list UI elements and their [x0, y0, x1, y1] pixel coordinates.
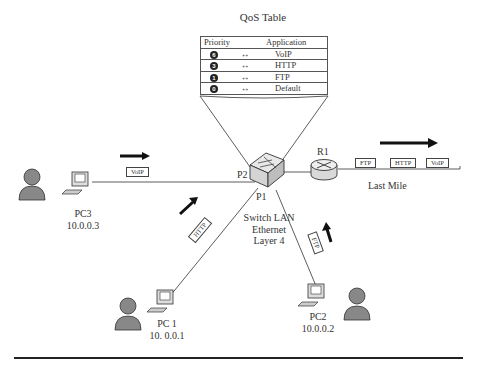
qos-row: 6 ↔ VoIP	[201, 48, 328, 60]
host-name: PC 1	[142, 318, 192, 330]
host-ip: 10. 0.0.1	[142, 330, 192, 342]
router-label: R1	[317, 146, 329, 158]
qos-application: VoIP	[263, 48, 328, 60]
pc1-computer-icon[interactable]	[147, 290, 173, 312]
qos-table: Priority Application 6 ↔ VoIP 3 ↔ HTTP 1…	[200, 36, 328, 95]
switch-label: Switch LAN Ethernet Layer 4	[234, 212, 304, 247]
qos-callout-line-left	[200, 96, 250, 167]
arrow-icon-pc2	[322, 222, 331, 242]
bidirectional-arrow-icon: ↔	[227, 48, 263, 60]
arrow-icon-last-mile	[380, 138, 438, 148]
bidirectional-arrow-icon: ↔	[227, 71, 263, 83]
arrow-icon-pc1	[180, 197, 198, 214]
port-label-p2: P2	[237, 169, 248, 181]
host-ip: 10.0.0.2	[293, 323, 343, 335]
user-icon-pc2	[344, 288, 370, 320]
host-name: PC3	[58, 208, 108, 220]
qos-application: HTTP	[263, 60, 328, 72]
qos-row: 3 ↔ HTTP	[201, 60, 328, 72]
pc2-label: PC2 10.0.0.2	[293, 311, 343, 334]
port-label-p1: P1	[256, 191, 267, 203]
router-icon[interactable]	[311, 160, 337, 181]
pc1-label: PC 1 10. 0.0.1	[142, 318, 192, 341]
pc2-computer-icon[interactable]	[298, 284, 324, 306]
pc3-label: PC3 10.0.0.3	[58, 208, 108, 231]
user-icon-pc3	[19, 169, 45, 200]
packet-voip: VoIP	[426, 158, 449, 168]
priority-badge: 3	[210, 62, 218, 70]
pc3-computer-icon[interactable]	[62, 172, 88, 194]
switch-icon[interactable]	[250, 153, 284, 187]
bidirectional-arrow-icon: ↔	[227, 83, 263, 95]
qos-row: 0 ↔ Default	[201, 83, 328, 95]
host-ip: 10.0.0.3	[58, 220, 108, 232]
qos-row: 1 ↔ FTP	[201, 71, 328, 83]
packet-http: HTTP	[390, 158, 416, 168]
priority-badge: 1	[210, 74, 218, 82]
packet-ftp: FTP	[355, 158, 376, 168]
priority-badge: 6	[210, 51, 218, 59]
bidirectional-arrow-icon: ↔	[227, 60, 263, 72]
qos-header-priority: Priority	[201, 37, 264, 49]
priority-badge: 0	[210, 85, 218, 93]
qos-application: Default	[263, 83, 328, 95]
qos-application: FTP	[263, 71, 328, 83]
user-icon-pc1	[115, 298, 141, 330]
arrow-icon-pc3	[120, 152, 150, 160]
qos-header-application: Application	[263, 37, 328, 49]
packet-pc3: VoIP	[126, 167, 149, 177]
host-name: PC2	[293, 311, 343, 323]
qos-table-title: QoS Table	[228, 11, 298, 23]
last-mile-label: Last Mile	[368, 180, 407, 192]
